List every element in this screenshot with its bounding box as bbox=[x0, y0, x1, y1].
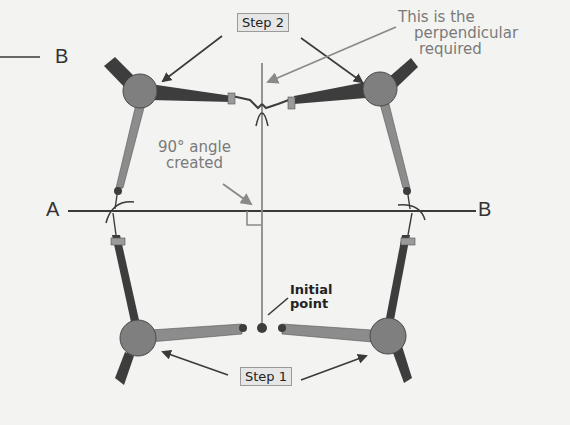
initial-point-pointer bbox=[268, 298, 288, 315]
perpendicular-note: This is the perpendicular required bbox=[398, 10, 518, 57]
angle-note-line2: created bbox=[158, 156, 231, 172]
step2-arrow-left bbox=[163, 36, 222, 81]
initial-point-note-line2: point bbox=[290, 297, 332, 311]
compass-top-right bbox=[262, 58, 418, 209]
step2-label: Step 2 bbox=[237, 13, 289, 32]
compass-bottom-left bbox=[111, 213, 247, 385]
initial-point-note: Initial point bbox=[290, 283, 332, 310]
label-point-a: A bbox=[46, 198, 59, 221]
step1-arrow-left bbox=[163, 352, 228, 375]
arc-left bbox=[106, 202, 134, 223]
label-point-b: B bbox=[478, 198, 491, 221]
initial-point-note-line1: Initial bbox=[290, 283, 332, 297]
right-angle-marker bbox=[247, 211, 261, 225]
angle-arrow bbox=[223, 184, 251, 204]
perpendicular-note-line3: required bbox=[398, 42, 518, 58]
diagram-canvas: B A B Step 2 Step 1 This is the perpendi… bbox=[0, 0, 570, 425]
angle-note: 90° angle created bbox=[158, 140, 231, 172]
step1-label: Step 1 bbox=[240, 367, 292, 386]
step1-arrow-right bbox=[301, 356, 366, 380]
label-stray-b: B bbox=[55, 45, 68, 68]
initial-point-dot bbox=[257, 323, 267, 333]
compass-top-left bbox=[104, 57, 262, 209]
